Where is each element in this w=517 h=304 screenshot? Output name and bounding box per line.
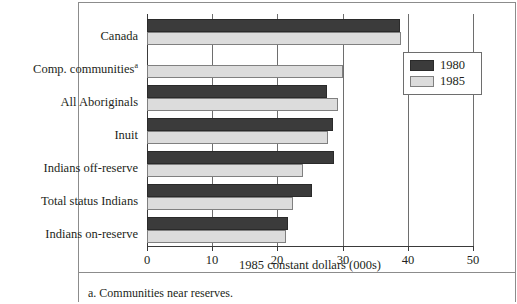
category-label-canada: Canada <box>101 29 138 44</box>
bar-1985-all-aboriginals <box>147 98 338 111</box>
figure-frame-right <box>515 2 516 302</box>
tick-50 <box>473 246 474 251</box>
value-axis-title: 1985 constant dollars (000s) <box>147 258 473 273</box>
chart-figure: Canada Comp. communitiesa All Aboriginal… <box>0 0 517 304</box>
chart-legend: 1980 1985 <box>403 52 482 95</box>
tick-10 <box>212 246 213 251</box>
bar-1980-all-aboriginals <box>147 85 327 98</box>
legend-item-1980: 1980 <box>410 57 476 73</box>
bar-1985-canada <box>147 32 401 45</box>
bar-1980-indians-on-reserve <box>147 217 288 230</box>
plot-area: 01020304050 <box>147 14 473 246</box>
bar-1985-inuit <box>147 131 328 144</box>
category-axis-line <box>147 246 473 247</box>
bar-1980-total-status-indians <box>147 184 312 197</box>
gridline-50 <box>473 14 474 246</box>
category-label-indians-on-reserve: Indians on-reserve <box>45 227 138 242</box>
category-label-comp-communities: Comp. communitiesa <box>33 61 138 77</box>
legend-label-1985: 1985 <box>440 75 465 88</box>
tick-0 <box>147 246 148 251</box>
bar-1985-indians-on-reserve <box>147 230 286 243</box>
bar-1985-comp-communities <box>147 65 343 78</box>
gridline-40 <box>408 14 409 246</box>
category-label-total-status-indians: Total status Indians <box>41 194 138 209</box>
bar-1980-inuit <box>147 118 333 131</box>
footnote-marker: a <box>134 61 138 70</box>
category-label-inuit: Inuit <box>114 128 138 143</box>
bar-1980-canada <box>147 19 400 32</box>
category-label-comp-communities-text: Comp. communities <box>33 62 134 76</box>
figure-frame-top <box>78 2 516 3</box>
tick-40 <box>408 246 409 251</box>
category-axis-labels: Canada Comp. communitiesa All Aboriginal… <box>0 14 147 246</box>
legend-label-1980: 1980 <box>440 59 465 72</box>
chart-footnote: a. Communities near reserves. <box>88 286 233 301</box>
gridline-30 <box>343 14 344 246</box>
bar-1985-total-status-indians <box>147 197 293 210</box>
legend-swatch-1980 <box>410 60 434 71</box>
tick-30 <box>343 246 344 251</box>
bar-1980-indians-off-reserve <box>147 151 334 164</box>
legend-item-1985: 1985 <box>410 73 476 89</box>
category-label-indians-off-reserve: Indians off-reserve <box>43 161 138 176</box>
legend-swatch-1985 <box>410 76 434 87</box>
bar-1985-indians-off-reserve <box>147 164 303 177</box>
tick-20 <box>277 246 278 251</box>
category-label-all-aboriginals: All Aboriginals <box>61 95 138 110</box>
